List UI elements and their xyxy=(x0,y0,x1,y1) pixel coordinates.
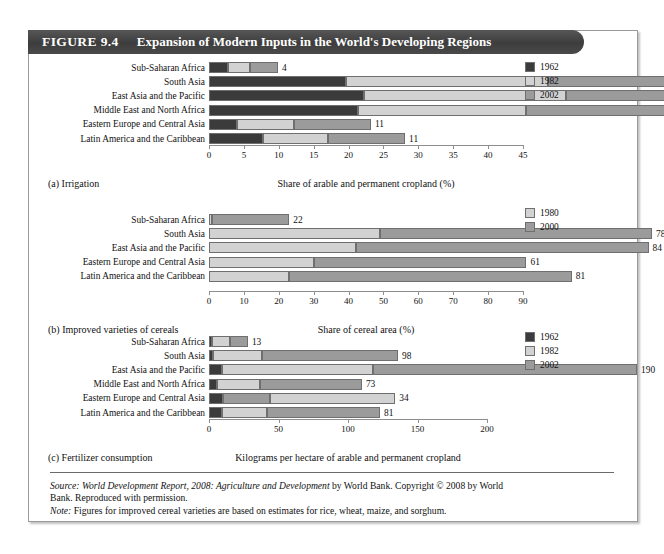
figure-notes: Source: World Development Report, 2008: … xyxy=(50,480,620,517)
x-axis-tick xyxy=(488,145,489,149)
bar-value-label: 4 xyxy=(282,63,287,74)
bar-segment xyxy=(228,62,250,73)
x-axis-tick-label: 90 xyxy=(508,296,538,306)
x-axis-title-c: Kilograms per hectare of arable and perm… xyxy=(235,452,461,463)
bar-value-label: 61 xyxy=(530,257,539,268)
source-text-1: World Development Report, 2008: Agricult… xyxy=(79,480,329,491)
figure-title-bar: FIGURE 9.4 Expansion of Modern Inputs in… xyxy=(28,30,584,54)
bar-segment xyxy=(526,105,664,116)
bar-value-label: 190 xyxy=(641,365,655,376)
legend-swatch-icon xyxy=(525,222,535,232)
bar-segment xyxy=(270,393,395,404)
bar-segment xyxy=(373,364,637,375)
x-axis-tick-label: 150 xyxy=(403,424,433,434)
category-label: East Asia and the Pacific xyxy=(40,366,205,375)
bar-value-label: 78 xyxy=(656,229,664,240)
x-axis-tick xyxy=(453,145,454,149)
x-axis-tick xyxy=(244,145,245,149)
x-axis-tick-label: 0 xyxy=(194,424,224,434)
legend-c: 196219822002 xyxy=(525,332,559,374)
x-axis-tick xyxy=(349,145,350,149)
category-label: Eastern Europe and Central Asia xyxy=(40,258,205,267)
bar-segment xyxy=(213,350,262,361)
legend-item: 1980 xyxy=(525,208,559,218)
x-axis-tick-label: 200 xyxy=(472,424,502,434)
figure-title: Expansion of Modern Inputs in the World'… xyxy=(137,34,491,50)
legend-swatch-icon xyxy=(525,76,535,86)
note-line: Note: Figures for improved cereal variet… xyxy=(50,505,620,517)
x-axis-tick xyxy=(418,419,419,423)
bar-segment xyxy=(209,105,358,116)
legend-b: 19802000 xyxy=(525,208,559,236)
x-axis-tick xyxy=(418,145,419,149)
bar-segment xyxy=(209,364,222,375)
x-axis-tick xyxy=(487,419,488,423)
source-line-1: Source: World Development Report, 2008: … xyxy=(50,480,620,492)
bar-segment xyxy=(209,257,314,268)
x-axis-tick-label: 35 xyxy=(438,150,468,160)
legend-label: 2002 xyxy=(540,360,559,370)
bar-segment xyxy=(209,379,217,390)
x-axis-tick xyxy=(279,419,280,423)
category-label: South Asia xyxy=(40,230,205,239)
legend-item: 2002 xyxy=(525,360,559,370)
category-label: Eastern Europe and Central Asia xyxy=(40,394,205,403)
x-axis-tick-label: 30 xyxy=(299,296,329,306)
bar-segment xyxy=(237,119,294,130)
bar-value-label: 34 xyxy=(399,393,408,404)
x-axis-tick xyxy=(314,291,315,295)
category-label: Latin America and the Caribbean xyxy=(40,135,205,144)
bar-segment xyxy=(263,133,329,144)
bar-segment xyxy=(230,336,248,347)
bar-segment xyxy=(209,271,289,282)
x-axis-tick xyxy=(209,419,210,423)
figure-number: FIGURE 9.4 xyxy=(42,34,119,50)
category-label: Eastern Europe and Central Asia xyxy=(40,120,205,129)
x-axis-tick-label: 40 xyxy=(334,296,364,306)
panel-caption-a: (a) Irrigation xyxy=(48,178,99,189)
bar-segment xyxy=(209,242,356,253)
x-axis-tick-label: 100 xyxy=(333,424,363,434)
legend-label: 1962 xyxy=(540,62,559,72)
bar-segment xyxy=(548,76,664,87)
x-axis-tick-label: 0 xyxy=(194,150,224,160)
x-axis-tick xyxy=(383,145,384,149)
bar-segment xyxy=(212,336,230,347)
legend-swatch-icon xyxy=(525,332,535,342)
bar-segment xyxy=(209,62,228,73)
bar-value-label: 22 xyxy=(293,215,302,226)
bar-segment xyxy=(209,90,364,101)
bar-segment xyxy=(212,214,289,225)
bar-segment xyxy=(294,119,371,130)
legend-label: 1962 xyxy=(540,332,559,342)
bar-segment xyxy=(314,257,527,268)
x-axis-tick xyxy=(349,291,350,295)
x-axis-tick xyxy=(279,145,280,149)
category-label: Sub-Saharan Africa xyxy=(40,216,205,225)
legend-label: 2000 xyxy=(540,222,559,232)
source-text-1b: by World Bank. Copyright © 2008 by World xyxy=(330,480,504,491)
x-axis-tick-label: 70 xyxy=(438,296,468,306)
x-axis-tick xyxy=(383,291,384,295)
category-label: Latin America and the Caribbean xyxy=(40,409,205,418)
x-axis-tick-label: 5 xyxy=(229,150,259,160)
bar-segment xyxy=(267,407,380,418)
bar-value-label: 13 xyxy=(252,337,261,348)
category-label: East Asia and the Pacific xyxy=(40,244,205,253)
bar-segment xyxy=(289,271,572,282)
x-axis-tick-label: 50 xyxy=(368,296,398,306)
category-label: Latin America and the Caribbean xyxy=(40,272,205,281)
notes-divider xyxy=(50,472,614,473)
legend-label: 1982 xyxy=(540,76,559,86)
legend-swatch-icon xyxy=(525,360,535,370)
bar-segment xyxy=(566,90,664,101)
x-axis-tick xyxy=(348,419,349,423)
panel-caption-c: (c) Fertilizer consumption xyxy=(48,452,152,463)
x-axis-tick-label: 20 xyxy=(334,150,364,160)
bar-segment xyxy=(262,350,398,361)
legend-label: 1982 xyxy=(540,346,559,356)
x-axis-tick xyxy=(279,291,280,295)
x-axis-tick-label: 60 xyxy=(403,296,433,306)
x-axis-tick-label: 0 xyxy=(194,296,224,306)
legend-swatch-icon xyxy=(525,90,535,100)
